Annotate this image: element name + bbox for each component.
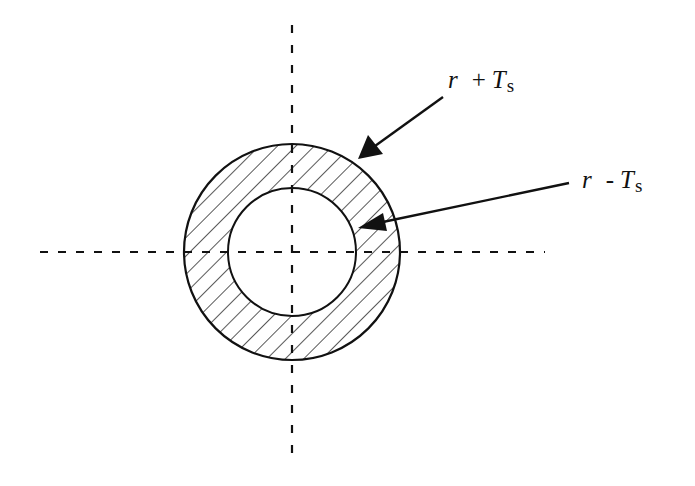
- label-inner-subscript: s: [635, 175, 642, 196]
- label-outer-operator: +: [472, 66, 486, 93]
- label-inner-term: T: [620, 166, 634, 193]
- label-outer-subscript: s: [507, 75, 514, 96]
- label-outer-term: T: [492, 66, 506, 93]
- hatched-ring-fill: [0, 0, 695, 486]
- label-inner-operator: -: [606, 166, 614, 193]
- label-inner-variable: r: [582, 166, 592, 193]
- label-inner-radius: r-Ts: [582, 167, 642, 192]
- annulus-diagram: [0, 0, 695, 486]
- label-outer-radius: r+Ts: [448, 67, 514, 92]
- label-outer-variable: r: [448, 66, 458, 93]
